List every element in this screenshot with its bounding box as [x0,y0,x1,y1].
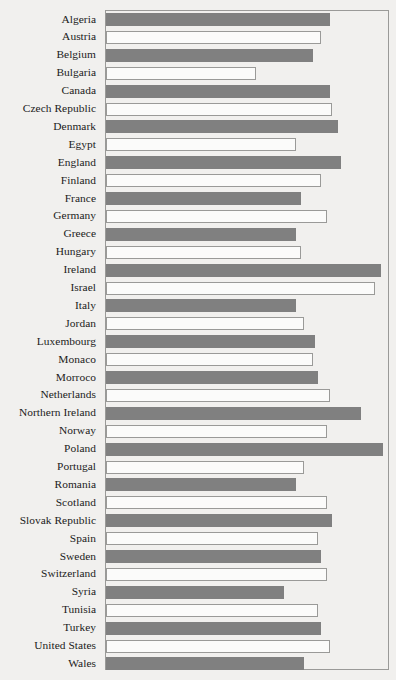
category-label: Syria [0,585,96,597]
bar [106,85,330,98]
bar [106,299,296,312]
bar [106,246,301,259]
category-label: Ireland [0,263,96,275]
plot-area [105,10,389,670]
bar [106,282,375,295]
bar [106,264,381,277]
bar [106,550,321,563]
bar [106,67,256,80]
bar [106,210,327,223]
bar [106,407,361,420]
bar [106,640,330,653]
category-label: Turkey [0,621,96,633]
category-label: Israel [0,281,96,293]
bar [106,317,304,330]
category-label: Finland [0,174,96,186]
category-label-axis: AlgeriaAustriaBelgiumBulgariaCanadaCzech… [0,10,101,670]
category-label: Italy [0,299,96,311]
category-label: Wales [0,657,96,669]
bar [106,174,321,187]
category-label: Romania [0,478,96,490]
bar [106,49,313,62]
category-label: Tunisia [0,603,96,615]
bar [106,514,332,527]
category-label: Spain [0,532,96,544]
category-label: Northern Ireland [0,406,96,418]
category-label: Slovak Republic [0,514,96,526]
bar [106,478,296,491]
bar [106,657,304,670]
category-label: Hungary [0,245,96,257]
category-label: Switzerland [0,567,96,579]
category-label: Algeria [0,13,96,25]
category-label: United States [0,639,96,651]
bar [106,586,284,599]
category-label: Poland [0,442,96,454]
bar [106,496,327,509]
category-label: Jordan [0,317,96,329]
category-label: Canada [0,84,96,96]
bar [106,622,321,635]
category-label: Norway [0,424,96,436]
bar [106,353,313,366]
category-label: Austria [0,30,96,42]
bar [106,371,318,384]
category-label: England [0,156,96,168]
category-label: Luxembourg [0,335,96,347]
category-label: Netherlands [0,388,96,400]
category-label: Belgium [0,48,96,60]
bar [106,138,296,151]
category-label: Portugal [0,460,96,472]
bar [106,604,318,617]
category-label: Morroco [0,371,96,383]
category-label: Scotland [0,496,96,508]
bar [106,443,383,456]
bar [106,389,330,402]
category-label: Germany [0,209,96,221]
category-label: Greece [0,227,96,239]
bar [106,568,327,581]
bar [106,156,341,169]
bar [106,228,296,241]
bar [106,532,318,545]
bar [106,13,330,26]
bar [106,192,301,205]
bar [106,335,315,348]
bar [106,461,304,474]
bar [106,103,332,116]
category-label: Egypt [0,138,96,150]
bar-chart: AlgeriaAustriaBelgiumBulgariaCanadaCzech… [0,0,396,680]
bar [106,425,327,438]
category-label: Sweden [0,550,96,562]
category-label: Monaco [0,353,96,365]
category-label: Czech Republic [0,102,96,114]
bar [106,31,321,44]
category-label: Denmark [0,120,96,132]
category-label: France [0,192,96,204]
category-label: Bulgaria [0,66,96,78]
bar [106,120,338,133]
